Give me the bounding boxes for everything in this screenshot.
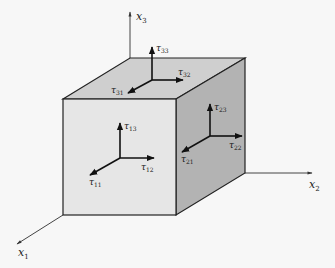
- axis-x1: x1: [17, 215, 63, 261]
- svg-text:x3: x3: [136, 10, 147, 25]
- tau-33-label: τ33: [156, 43, 169, 54]
- axis-x3: x3: [130, 10, 147, 58]
- svg-text:x2: x2: [309, 178, 320, 193]
- svg-text:x1: x1: [18, 246, 29, 261]
- stress-cube-diagram: x3 x2 x1 τ33 τ32 τ31: [0, 0, 335, 268]
- axis-x2: x2: [245, 173, 320, 193]
